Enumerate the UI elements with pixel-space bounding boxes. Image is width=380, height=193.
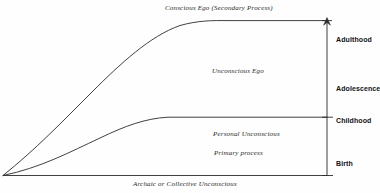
age-label-childhood: Childhood: [336, 117, 372, 124]
age-label-adulthood: Adulthood: [336, 36, 372, 43]
curve-conscious-ego: [3, 21, 327, 176]
diagram-canvas: Conscious Ego (Secondary Process) Uncons…: [0, 0, 380, 193]
label-conscious-ego: Conscious Ego (Secondary Process): [165, 5, 273, 12]
diagram-svg: [0, 0, 380, 193]
label-primary-process: Primary process: [214, 150, 263, 157]
curve-personal-unconscious: [3, 117, 327, 175]
age-label-birth: Birth: [336, 160, 353, 167]
age-label-adolescence: Adolescence: [336, 85, 380, 92]
label-unconscious-ego: Unconscious Ego: [212, 68, 264, 75]
label-archaic-collective-unconscious: Archaic or Collective Unconscious: [133, 181, 237, 188]
label-personal-unconscious: Personal Unconscious: [213, 131, 280, 138]
